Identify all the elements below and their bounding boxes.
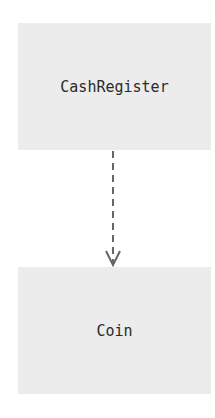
node-label: Coin [96, 322, 132, 340]
node-coin[interactable]: Coin [18, 267, 211, 394]
